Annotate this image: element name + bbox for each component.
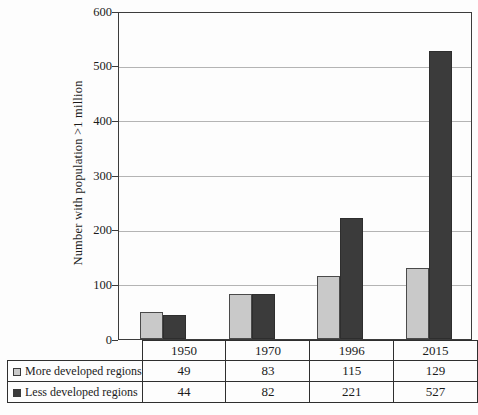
table-blank-cell — [8, 341, 143, 361]
bar-less-developed-regions-1950 — [163, 315, 186, 339]
y-tick-label-100: 100 — [68, 278, 112, 293]
bar-less-developed-regions-2015 — [429, 51, 452, 339]
bar-more-developed-regions-2015 — [406, 268, 429, 339]
y-tick-label-600: 600 — [68, 5, 112, 20]
plot-area — [118, 12, 472, 340]
table-value-less-developed-regions-1970: 82 — [226, 382, 310, 403]
bar-more-developed-regions-1970 — [229, 294, 252, 339]
table-row-less-developed-regions: Less developed regions4482221527 — [8, 382, 478, 403]
y-tick-label-500: 500 — [68, 59, 112, 74]
table-value-less-developed-regions-1996: 221 — [310, 382, 394, 403]
legend-label-less-developed-regions: Less developed regions — [25, 385, 138, 399]
bar-more-developed-regions-1950 — [140, 312, 163, 339]
y-tick-label-400: 400 — [68, 114, 112, 129]
table-value-more-developed-regions-1950: 49 — [142, 361, 226, 382]
y-tick-label-300: 300 — [68, 169, 112, 184]
legend-cell-less-developed-regions: Less developed regions — [8, 382, 143, 403]
table-value-less-developed-regions-1950: 44 — [142, 382, 226, 403]
data-table: 1950197019962015More developed regions49… — [7, 340, 478, 403]
gridline-500 — [119, 67, 471, 68]
table-value-less-developed-regions-2015: 527 — [394, 382, 478, 403]
bar-less-developed-regions-1996 — [340, 218, 363, 339]
bar-more-developed-regions-1996 — [317, 276, 340, 339]
table-category-1950: 1950 — [142, 341, 226, 361]
legend-cell-more-developed-regions: More developed regions — [8, 361, 143, 382]
table-value-more-developed-regions-2015: 129 — [394, 361, 478, 382]
table-category-2015: 2015 — [394, 341, 478, 361]
table-value-more-developed-regions-1996: 115 — [310, 361, 394, 382]
bar-less-developed-regions-1970 — [252, 294, 275, 339]
y-tick-label-200: 200 — [68, 223, 112, 238]
legend-swatch-more-developed-regions — [13, 368, 21, 376]
table-value-more-developed-regions-1970: 83 — [226, 361, 310, 382]
legend-swatch-less-developed-regions — [13, 389, 21, 397]
table-row-more-developed-regions: More developed regions4983115129 — [8, 361, 478, 382]
legend-label-more-developed-regions: More developed regions — [25, 364, 142, 378]
table-category-1970: 1970 — [226, 341, 310, 361]
gridline-200 — [119, 231, 471, 232]
gridline-300 — [119, 176, 471, 177]
table-category-1996: 1996 — [310, 341, 394, 361]
bar-chart-figure: Number with population >1 million 010020… — [0, 0, 478, 415]
gridline-400 — [119, 121, 471, 122]
